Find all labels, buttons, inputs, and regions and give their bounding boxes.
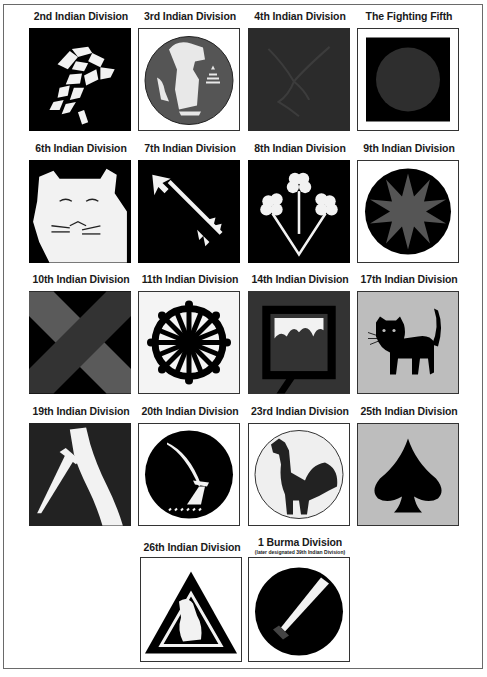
division-label: 11th Indian Division (132, 273, 248, 285)
division-label: 10th Indian Division (23, 273, 139, 285)
rooster-icon (248, 423, 350, 526)
tiger-head-icon (29, 160, 131, 263)
crossed-keys-icon (29, 28, 131, 131)
star-on-disc-icon (357, 160, 459, 263)
division-label: 8th Indian Division (242, 142, 358, 154)
division-label: 26th Indian Division (134, 541, 250, 553)
spade-icon (357, 423, 459, 526)
division-label: 23rd Indian Division (242, 405, 358, 417)
black-cat-icon (357, 291, 459, 394)
division-label: 3rd Indian Division (132, 10, 248, 22)
dagger-hand-icon (29, 423, 131, 526)
arrow-icon (138, 160, 240, 263)
division-label: 9th Indian Division (351, 142, 467, 154)
division-label: 2nd Indian Division (23, 10, 139, 22)
division-label: 1 Burma Division (242, 536, 358, 548)
tiger-triangle-icon (140, 557, 242, 662)
division-label: 14th Indian Division (242, 273, 358, 285)
wheel-icon (138, 291, 240, 394)
division-sublabel: (later designated 39th Indian Division) (242, 549, 358, 555)
disc-on-square-icon (357, 28, 459, 131)
sword-on-disc-icon (138, 423, 240, 526)
saltire-icon (29, 291, 131, 394)
dog-on-disc-icon (138, 28, 240, 131)
division-label: The Fighting Fifth (351, 10, 467, 22)
eagle-icon (248, 28, 350, 131)
division-label: 6th Indian Division (23, 142, 139, 154)
three-clovers-icon (248, 160, 350, 263)
division-label: 7th Indian Division (132, 142, 248, 154)
division-label: 17th Indian Division (351, 273, 467, 285)
division-label: 20th Indian Division (132, 405, 248, 417)
division-label: 19th Indian Division (23, 405, 139, 417)
dah-sword-on-disc-icon (248, 557, 350, 662)
division-label: 4th Indian Division (242, 10, 358, 22)
division-label: 25th Indian Division (351, 405, 467, 417)
framed-picture-icon (248, 291, 350, 394)
